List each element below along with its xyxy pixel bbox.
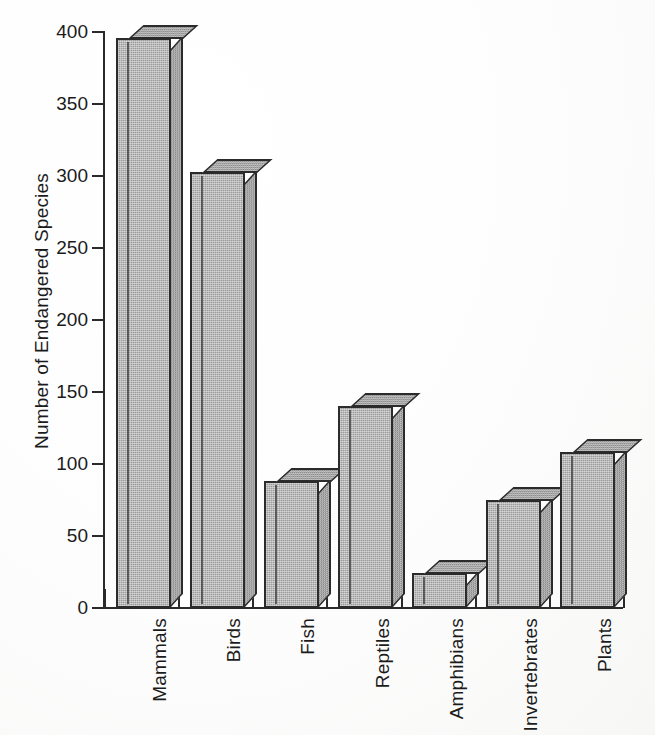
y-tick-label: 150 [0,381,88,403]
bar-front-face [264,481,319,608]
bar-reptiles [338,406,393,608]
bar-front-face [116,38,171,608]
y-tick-label: 350 [0,93,88,115]
y-tick-mark [92,175,104,177]
bar-side-face [614,450,627,608]
y-tick-label: 50 [0,525,88,547]
bar-top-face [572,439,643,453]
y-tick-mark [92,391,104,393]
bar-side-face [540,498,553,608]
bar-birds [190,172,245,608]
bar-inner-edge [423,577,425,604]
y-tick-mark [92,103,104,105]
y-tick-label: 200 [0,309,88,331]
x-label-plants: Plants [594,618,616,672]
x-label-birds: Birds [223,618,245,662]
bar-inner-edge [201,176,203,604]
bar-side-face [318,479,331,608]
y-tick-mark [92,463,104,465]
bar-front-face [560,452,615,608]
bar-amphibians [412,573,467,608]
bar-top-face [202,159,273,173]
y-tick-label: 0 [0,597,88,619]
x-label-amphibians: Amphibians [446,618,468,719]
y-tick-label: 400 [0,21,88,43]
bar-inner-edge [275,485,277,604]
bar-front-face [412,573,467,608]
x-tick-mark [104,589,106,608]
bar-front-face [486,500,541,608]
figure-caption [8,719,648,733]
x-label-invertebrates: Invertebrates [520,618,542,732]
y-tick-label: 250 [0,237,88,259]
bar-front-face [338,406,393,608]
y-tick-mark [92,535,104,537]
bar-inner-edge [571,456,573,604]
x-label-mammals: Mammals [149,618,171,702]
bar-side-face [244,169,257,608]
bar-plants [560,452,615,608]
bar-top-face [350,393,421,407]
bar-chart: Number of Endangered Species 05010015020… [0,0,655,735]
bar-inner-edge [127,42,129,604]
bar-side-face [170,35,183,608]
bar-inner-edge [497,504,499,604]
bar-fish [264,481,319,608]
x-label-reptiles: Reptiles [372,618,394,688]
bar-top-face [498,487,569,501]
bar-mammals [116,38,171,608]
bar-top-face [128,25,199,39]
bar-front-face [190,172,245,608]
y-tick-mark [92,247,104,249]
y-tick-label: 100 [0,453,88,475]
bar-top-face [424,560,495,574]
bar-inner-edge [349,410,351,604]
bar-side-face [392,404,405,608]
bar-invertebrates [486,500,541,608]
y-tick-mark [92,319,104,321]
y-tick-mark [92,607,104,609]
y-tick-label: 300 [0,165,88,187]
y-tick-mark [92,31,104,33]
bar-top-face [276,468,347,482]
bar-side-face [466,571,479,608]
x-label-fish: Fish [297,618,319,655]
